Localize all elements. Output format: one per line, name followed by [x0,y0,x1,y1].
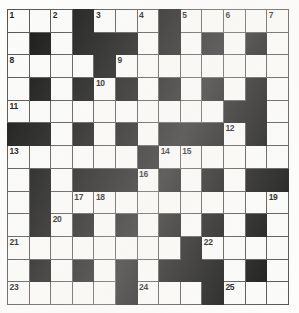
grid-letter-cell[interactable] [51,282,73,305]
grid-letter-cell[interactable] [267,236,289,259]
grid-letter-cell[interactable] [29,236,51,259]
grid-letter-cell[interactable]: 24 [137,282,159,305]
grid-letter-cell[interactable] [137,55,159,78]
grid-letter-cell[interactable] [223,168,245,191]
grid-letter-cell[interactable] [72,100,94,123]
crossword-grid[interactable]: 1234567891011121314151617181920212223242… [7,9,289,305]
grid-letter-cell[interactable]: 9 [115,55,137,78]
grid-letter-cell[interactable] [267,214,289,237]
grid-letter-cell[interactable]: 4 [137,10,159,33]
grid-letter-cell[interactable] [8,78,30,101]
grid-letter-cell[interactable] [223,32,245,55]
grid-letter-cell[interactable] [72,282,94,305]
grid-letter-cell[interactable] [223,146,245,169]
grid-letter-cell[interactable]: 8 [8,55,30,78]
grid-letter-cell[interactable] [8,32,30,55]
grid-letter-cell[interactable] [223,236,245,259]
grid-letter-cell[interactable]: 2 [51,10,73,33]
grid-letter-cell[interactable]: 21 [8,236,30,259]
grid-letter-cell[interactable] [51,55,73,78]
grid-letter-cell[interactable]: 10 [94,78,116,101]
grid-letter-cell[interactable] [115,146,137,169]
grid-letter-cell[interactable] [137,214,159,237]
grid-letter-cell[interactable]: 3 [94,10,116,33]
grid-letter-cell[interactable] [137,78,159,101]
grid-letter-cell[interactable] [29,10,51,33]
grid-letter-cell[interactable] [180,191,202,214]
grid-letter-cell[interactable]: 22 [202,236,224,259]
grid-letter-cell[interactable] [180,78,202,101]
grid-letter-cell[interactable] [159,236,181,259]
grid-letter-cell[interactable] [245,146,267,169]
grid-letter-cell[interactable] [180,282,202,305]
grid-letter-cell[interactable] [94,214,116,237]
grid-letter-cell[interactable] [267,146,289,169]
grid-letter-cell[interactable] [51,78,73,101]
grid-letter-cell[interactable] [115,236,137,259]
grid-letter-cell[interactable] [94,123,116,146]
grid-letter-cell[interactable]: 11 [8,100,30,123]
grid-letter-cell[interactable] [94,259,116,282]
grid-letter-cell[interactable] [137,100,159,123]
grid-letter-cell[interactable] [29,282,51,305]
grid-letter-cell[interactable] [223,191,245,214]
grid-letter-cell[interactable] [51,168,73,191]
grid-letter-cell[interactable] [180,100,202,123]
grid-letter-cell[interactable] [223,259,245,282]
grid-letter-cell[interactable] [8,259,30,282]
grid-letter-cell[interactable] [267,259,289,282]
grid-letter-cell[interactable] [137,191,159,214]
grid-letter-cell[interactable] [202,191,224,214]
grid-letter-cell[interactable] [115,100,137,123]
grid-letter-cell[interactable]: 7 [267,10,289,33]
grid-letter-cell[interactable] [51,146,73,169]
grid-letter-cell[interactable] [8,214,30,237]
grid-letter-cell[interactable] [267,100,289,123]
grid-letter-cell[interactable] [51,123,73,146]
grid-letter-cell[interactable]: 19 [267,191,289,214]
grid-letter-cell[interactable] [51,32,73,55]
grid-letter-cell[interactable] [180,168,202,191]
grid-letter-cell[interactable] [137,123,159,146]
grid-letter-cell[interactable] [267,55,289,78]
grid-letter-cell[interactable]: 13 [8,146,30,169]
grid-letter-cell[interactable] [72,236,94,259]
grid-letter-cell[interactable] [8,168,30,191]
grid-letter-cell[interactable]: 14 [159,146,181,169]
grid-letter-cell[interactable] [8,191,30,214]
grid-letter-cell[interactable] [245,191,267,214]
grid-letter-cell[interactable] [94,100,116,123]
grid-letter-cell[interactable]: 18 [94,191,116,214]
grid-letter-cell[interactable] [72,55,94,78]
grid-letter-cell[interactable] [94,146,116,169]
grid-letter-cell[interactable] [137,32,159,55]
grid-letter-cell[interactable] [180,55,202,78]
grid-letter-cell[interactable] [267,78,289,101]
grid-letter-cell[interactable]: 20 [51,214,73,237]
grid-letter-cell[interactable] [180,32,202,55]
grid-letter-cell[interactable]: 16 [137,168,159,191]
grid-letter-cell[interactable] [51,191,73,214]
grid-letter-cell[interactable] [159,55,181,78]
grid-letter-cell[interactable] [267,123,289,146]
grid-letter-cell[interactable] [202,146,224,169]
grid-letter-cell[interactable] [223,55,245,78]
grid-letter-cell[interactable] [51,236,73,259]
grid-letter-cell[interactable] [29,55,51,78]
grid-letter-cell[interactable]: 25 [223,282,245,305]
grid-letter-cell[interactable] [94,282,116,305]
grid-letter-cell[interactable]: 17 [72,191,94,214]
grid-letter-cell[interactable] [29,146,51,169]
grid-letter-cell[interactable] [159,282,181,305]
grid-letter-cell[interactable]: 15 [180,146,202,169]
grid-letter-cell[interactable] [137,236,159,259]
grid-letter-cell[interactable] [202,55,224,78]
grid-letter-cell[interactable] [245,282,267,305]
grid-letter-cell[interactable] [94,236,116,259]
grid-letter-cell[interactable] [115,191,137,214]
grid-letter-cell[interactable] [223,214,245,237]
grid-letter-cell[interactable]: 12 [223,123,245,146]
grid-letter-cell[interactable] [51,100,73,123]
grid-letter-cell[interactable] [245,236,267,259]
grid-letter-cell[interactable] [115,10,137,33]
